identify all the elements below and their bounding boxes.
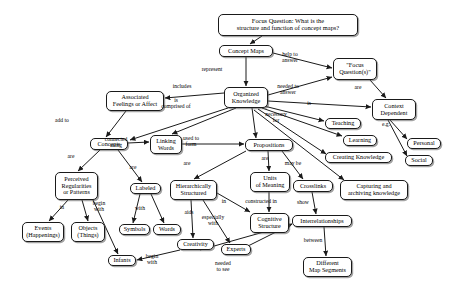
node-label: Personal bbox=[413, 140, 434, 147]
node-label: Words bbox=[159, 226, 175, 233]
node-label: Labeled bbox=[136, 185, 156, 192]
link-label-needed-to-see: needed to see bbox=[208, 261, 238, 273]
node-organized-knowledge[interactable]: Organized Knowledge bbox=[224, 87, 268, 108]
node-events-happenings[interactable]: Events (Happenings) bbox=[22, 222, 64, 242]
link-label-text: needed to see bbox=[215, 260, 231, 272]
link-label-text: are bbox=[262, 155, 269, 161]
node-label: "Focus Question(s)" bbox=[339, 62, 370, 75]
node-crosslinks[interactable]: Crosslinks bbox=[293, 180, 333, 192]
node-label: Associated Feelings or Affect bbox=[113, 94, 158, 107]
link-label-are-concepts: are bbox=[63, 154, 79, 160]
link-label-are-hierarchically: are bbox=[179, 161, 195, 167]
node-different-map-segments[interactable]: Different Map Segments bbox=[303, 257, 352, 277]
node-label: Organized Knowledge bbox=[232, 91, 261, 104]
node-label: Cognitive Structure bbox=[257, 216, 281, 229]
node-creativity[interactable]: Creativity bbox=[177, 239, 214, 250]
node-label: Units of Meaning bbox=[256, 175, 285, 188]
node-focus-questions[interactable]: "Focus Question(s)" bbox=[333, 58, 377, 80]
node-cognitive-structure[interactable]: Cognitive Structure bbox=[250, 213, 289, 233]
link-label-text: is comprised of bbox=[161, 97, 190, 109]
node-creating-knowledge[interactable]: Creating Knowledge bbox=[325, 152, 392, 163]
node-hierarchically-structured[interactable]: Hierarchically Structured bbox=[170, 180, 217, 200]
link-label-text: e.g. bbox=[382, 121, 390, 127]
link-label-text: between bbox=[304, 237, 323, 243]
link-label-text: aids bbox=[184, 209, 193, 215]
link-label-text: connected using bbox=[105, 136, 128, 148]
link-label-includes: includes bbox=[165, 84, 199, 90]
link-label-add-to: add to bbox=[47, 118, 77, 124]
link-label-text: begin with bbox=[146, 253, 158, 265]
link-label-text: in bbox=[222, 198, 226, 204]
link-label-text: needed to answer bbox=[277, 83, 299, 95]
link-label-text: are bbox=[355, 84, 362, 90]
node-propositions[interactable]: Propositions bbox=[245, 139, 293, 151]
link-label-connected-using: connected using bbox=[96, 137, 136, 149]
node-label: Linking Words bbox=[156, 138, 176, 151]
node-perceived-regularities-or-patterns[interactable]: Perceived Regularities or Patterns bbox=[55, 172, 98, 200]
link-label-is: is bbox=[301, 101, 317, 107]
node-focus-question[interactable]: Focus Question: What is the structure an… bbox=[218, 14, 358, 36]
link-label-text: in bbox=[60, 204, 64, 210]
concept-map-canvas: Focus Question: What is the structure an… bbox=[0, 0, 454, 300]
node-infants[interactable]: Infants bbox=[108, 255, 136, 266]
node-label: Hierarchically Structured bbox=[176, 183, 211, 196]
node-experts[interactable]: Experts bbox=[221, 244, 251, 255]
link-label-text: constructed in bbox=[245, 198, 277, 204]
link-label-with-labeled: with bbox=[130, 206, 150, 212]
link-label-begin-with-regularities: begin with bbox=[86, 201, 112, 213]
link-label-text: necessary for bbox=[265, 111, 287, 123]
link-label-necessary-for: necessary for bbox=[256, 112, 296, 124]
link-label-text: especially with bbox=[202, 214, 224, 226]
link-label-show: show bbox=[292, 200, 314, 206]
node-objects-things[interactable]: Objects (Things) bbox=[71, 222, 105, 242]
link-label-may-be: may be bbox=[278, 161, 308, 167]
node-labeled[interactable]: Labeled bbox=[130, 183, 161, 194]
node-interrelationships[interactable]: Interrelationships bbox=[292, 215, 352, 227]
link-label-used-to-form: used to form bbox=[176, 136, 206, 148]
node-label: Context Dependent bbox=[381, 103, 408, 116]
node-label: Events (Happenings) bbox=[26, 225, 60, 238]
link-label-text: begin with bbox=[93, 200, 105, 212]
node-capturing-archiving-knowledge[interactable]: Capturing and archiving knowledge bbox=[340, 180, 408, 200]
link-label-text: includes bbox=[173, 83, 192, 89]
node-label: Propositions bbox=[254, 142, 285, 149]
link-label-are-labeled: are bbox=[125, 165, 141, 171]
link-label-help-to-answer: help to answer bbox=[272, 52, 308, 64]
node-label: Social bbox=[411, 157, 426, 164]
node-social[interactable]: Social bbox=[405, 155, 433, 166]
link-label-between: between bbox=[297, 238, 329, 244]
link-label-text: used to form bbox=[183, 135, 199, 147]
node-label: Learning bbox=[349, 137, 371, 144]
link-label-is-comprised-of: is comprised of bbox=[152, 98, 200, 110]
node-label: Perceived Regularities or Patterns bbox=[62, 176, 92, 196]
node-label: Different Map Segments bbox=[309, 260, 346, 273]
node-label: Teaching bbox=[332, 120, 355, 127]
link-label-text: may be bbox=[285, 160, 301, 166]
link-label-text: help to answer bbox=[282, 51, 298, 63]
link-label-eg: e.g. bbox=[378, 122, 394, 128]
node-label: Creating Knowledge bbox=[333, 154, 384, 161]
node-label: Crosslinks bbox=[300, 183, 326, 190]
link-label-represent: represent bbox=[192, 67, 232, 73]
node-learning[interactable]: Learning bbox=[343, 135, 377, 146]
node-label: Focus Question: What is the structure an… bbox=[237, 18, 339, 32]
node-symbols[interactable]: Symbols bbox=[119, 224, 150, 235]
link-label-text: add to bbox=[55, 117, 69, 123]
node-context-dependent[interactable]: Context Dependent bbox=[372, 99, 416, 120]
link-label-text: are bbox=[184, 160, 191, 166]
link-label-text: are bbox=[68, 153, 75, 159]
node-units-of-meaning[interactable]: Units of Meaning bbox=[250, 172, 290, 192]
node-concept-maps[interactable]: Concept Maps bbox=[219, 45, 273, 57]
link-label-text: show bbox=[297, 199, 309, 205]
node-label: Objects (Things) bbox=[77, 225, 98, 238]
node-words[interactable]: Words bbox=[153, 224, 181, 235]
link-label-text: are bbox=[130, 164, 137, 170]
node-label: Capturing and archiving knowledge bbox=[348, 183, 400, 196]
node-personal[interactable]: Personal bbox=[407, 138, 441, 149]
node-label: Infants bbox=[113, 257, 130, 264]
node-label: Creativity bbox=[183, 241, 208, 248]
node-label: Concept Maps bbox=[228, 48, 264, 55]
node-label: Interrelationships bbox=[300, 218, 343, 225]
link-label-especially-with: especially with bbox=[196, 215, 230, 227]
node-teaching[interactable]: Teaching bbox=[325, 118, 361, 129]
